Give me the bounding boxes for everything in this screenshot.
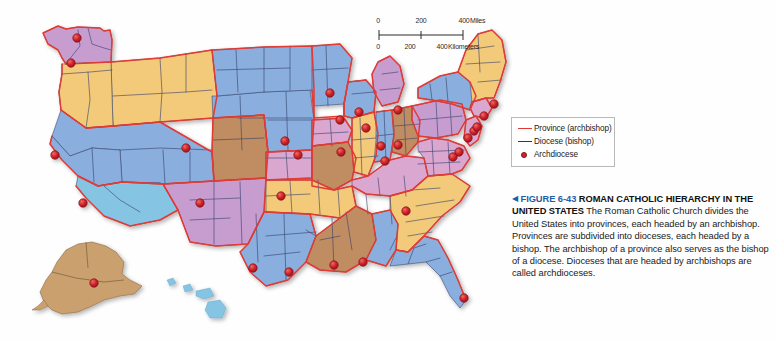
archdiocese-marker xyxy=(377,142,385,150)
province-kansascity xyxy=(266,150,312,180)
archdiocese-dot-icon xyxy=(517,149,534,160)
scale-miles-tick-2: 400 xyxy=(458,17,469,24)
archdiocese-marker xyxy=(449,153,457,161)
archdiocese-marker xyxy=(330,261,338,269)
archdiocese-marker xyxy=(326,89,334,97)
archdiocese-marker xyxy=(490,100,498,108)
hawaii-kauai xyxy=(167,278,176,286)
archdiocese-marker xyxy=(277,192,285,200)
archdiocese-marker xyxy=(480,112,488,120)
province-omaha-n xyxy=(212,46,314,96)
diocese-line-icon xyxy=(517,136,534,147)
scale-bar-kilometers-labels: 0 200 400 Kilometers xyxy=(376,43,488,54)
legend-label-diocese: Diocese (bishop) xyxy=(534,137,594,146)
archdiocese-marker xyxy=(79,199,87,207)
province-chicago xyxy=(352,112,378,176)
scale-bar-rule xyxy=(378,29,464,41)
province-line-icon xyxy=(517,123,534,134)
scale-miles-tick-1: 200 xyxy=(415,17,426,24)
archdiocese-marker xyxy=(281,137,289,145)
caption-figure-number: FIGURE 6-43 xyxy=(521,194,577,204)
archdiocese-marker xyxy=(359,258,367,266)
figure-caption: ◀ FIGURE 6-43 ROMAN CATHOLIC HIERARCHY I… xyxy=(512,193,770,280)
map-landmass-group xyxy=(32,26,506,318)
archdiocese-marker xyxy=(182,144,190,152)
province-denver xyxy=(212,115,268,181)
alaska-landmass xyxy=(40,242,142,314)
scale-bar: 0 200 400 Miles 0 200 400 Kilometers xyxy=(376,17,488,55)
alaska-inset xyxy=(32,242,142,314)
legend-label-archdiocese: Archdiocese xyxy=(534,150,578,159)
scale-km-tick-2: 400 xyxy=(436,43,447,50)
archdiocese-marker xyxy=(381,157,389,165)
caption-arrow-icon: ◀ xyxy=(512,194,518,203)
archdiocese-marker xyxy=(473,123,481,131)
legend-item-diocese: Diocese (bishop) xyxy=(517,135,609,148)
archdiocese-marker xyxy=(90,279,98,287)
archdiocese-marker xyxy=(336,116,344,124)
archdiocese-marker xyxy=(355,108,363,116)
hawaii-molokai-maui xyxy=(196,288,214,299)
archdiocese-marker xyxy=(362,124,370,132)
legend-label-province: Province (archbishop) xyxy=(534,124,612,133)
archdiocese-marker xyxy=(402,207,410,215)
hawaii-inset xyxy=(167,278,226,318)
caption-body: The Roman Catholic Church divides the Un… xyxy=(512,206,769,278)
archdiocese-marker xyxy=(51,151,59,159)
archdiocese-marker xyxy=(337,148,345,156)
archdiocese-marker xyxy=(460,294,468,302)
province-seattle xyxy=(43,26,112,64)
legend-item-archdiocese: Archdiocese xyxy=(517,148,609,161)
archdiocese-marker xyxy=(394,141,402,149)
archdiocese-marker xyxy=(285,268,293,276)
hawaii-bigisland xyxy=(205,300,226,318)
archdiocese-marker xyxy=(464,134,472,142)
archdiocese-marker xyxy=(294,151,302,159)
figure-container: 0 200 400 Miles 0 200 400 Kilometers Pro… xyxy=(0,0,777,342)
archdiocese-marker xyxy=(249,264,257,272)
archdiocese-marker xyxy=(196,199,204,207)
scale-bar-miles-labels: 0 200 400 Miles xyxy=(376,17,488,28)
scale-km-tick-0: 0 xyxy=(376,43,380,50)
scale-km-unit: Kilometers xyxy=(448,43,479,50)
scale-miles-unit: Miles xyxy=(470,17,485,24)
hawaii-oahu xyxy=(183,284,193,292)
scale-km-tick-1: 200 xyxy=(404,43,415,50)
archdiocese-marker xyxy=(394,106,402,114)
scale-miles-tick-0: 0 xyxy=(376,17,380,24)
map-legend: Province (archbishop) Diocese (bishop) A… xyxy=(511,117,615,167)
archdiocese-marker xyxy=(73,34,81,42)
legend-item-province: Province (archbishop) xyxy=(517,122,609,135)
archdiocese-marker xyxy=(67,59,75,67)
